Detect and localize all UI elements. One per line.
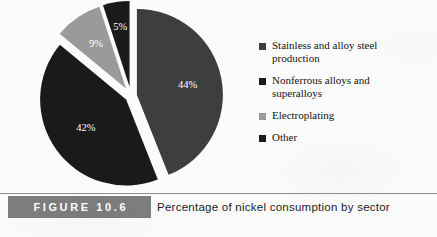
pie-slice-value-label: 42% [76, 122, 96, 133]
legend-square-icon [259, 43, 266, 50]
caption-divider-rule [0, 193, 437, 194]
figure-caption: Percentage of nickel consumption by sect… [157, 196, 390, 218]
legend-item-nonferrous-alloys-and-superalloys: Nonferrous alloys and superalloys [259, 74, 431, 100]
legend-item-label: Other [272, 131, 297, 144]
pie-slice [137, 9, 223, 175]
legend-item-other: Other [259, 131, 431, 144]
legend-item-electroplating: Electroplating [259, 109, 431, 122]
pie-chart: 44%42%9%5% [18, 0, 253, 190]
pie-slice-value-label: 44% [178, 79, 198, 90]
legend-item-stainless-and-alloy-steel-production: Stainless and alloy steel production [259, 39, 431, 65]
legend-item-label: Electroplating [272, 109, 334, 122]
legend-square-icon [259, 135, 266, 142]
legend-item-label: Nonferrous alloys and superalloys [272, 74, 370, 100]
pie-slices [40, 1, 223, 185]
figure-number-label: FIGURE 10.6 [31, 201, 128, 213]
pie-chart-svg: 44%42%9%5% [18, 0, 253, 190]
chart-legend: Stainless and alloy steel production Non… [259, 39, 431, 153]
legend-square-icon [259, 113, 266, 120]
figure-number-badge: FIGURE 10.6 [8, 196, 151, 218]
pie-slice-value-label: 5% [113, 21, 127, 32]
legend-item-label: Stainless and alloy steel production [272, 39, 377, 65]
figure-page: 44%42%9%5% Stainless and alloy steel pro… [0, 0, 437, 237]
pie-slice-value-label: 9% [89, 38, 103, 49]
legend-square-icon [259, 78, 266, 85]
